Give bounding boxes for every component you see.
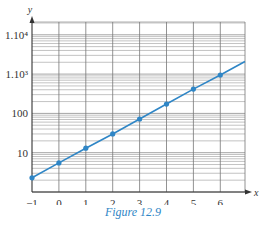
y-tick-label: 1.10³ xyxy=(5,68,28,80)
chart-grid xyxy=(32,22,245,192)
x-axis-arrow-icon xyxy=(245,190,252,195)
x-tick-label: 2 xyxy=(110,197,116,205)
x-tick-label: 1 xyxy=(83,197,89,205)
data-point-marker xyxy=(29,175,34,180)
y-tick-labels: 101001.10³1.10⁴ xyxy=(5,29,29,159)
x-tick-label: 6 xyxy=(218,197,224,205)
x-tick-label: −1 xyxy=(26,197,38,205)
data-point-marker xyxy=(164,101,169,106)
x-tick-label: 0 xyxy=(56,197,62,205)
x-tick-label: 5 xyxy=(191,197,197,205)
data-point-marker xyxy=(137,116,142,121)
y-tick-label: 1.10⁴ xyxy=(5,29,28,41)
x-axis-label: x xyxy=(253,187,259,198)
data-point-marker xyxy=(56,160,61,165)
y-axis-label: y xyxy=(27,4,33,15)
chart-axes xyxy=(30,16,253,195)
x-tick-label: 4 xyxy=(164,197,170,205)
data-series xyxy=(29,61,245,180)
x-tick-labels: −10123456 xyxy=(26,197,223,205)
data-point-marker xyxy=(83,146,88,151)
y-tick-label: 100 xyxy=(12,107,29,119)
data-point-marker xyxy=(110,131,115,136)
data-point-marker xyxy=(218,72,223,77)
data-point-marker xyxy=(191,87,196,92)
y-tick-label: 10 xyxy=(17,147,29,159)
log-scale-line-chart: 101001.10³1.10⁴ −10123456 y x xyxy=(0,0,266,205)
figure-caption: Figure 12.9 xyxy=(0,205,266,220)
y-axis-arrow-icon xyxy=(30,16,35,23)
x-tick-label: 3 xyxy=(137,197,143,205)
